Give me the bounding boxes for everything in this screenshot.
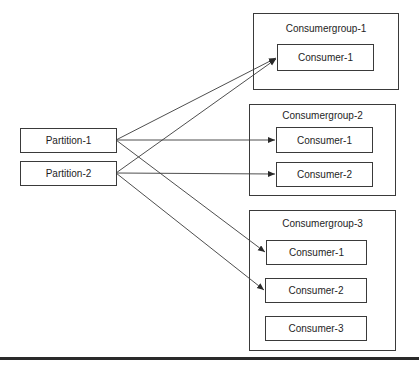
cg2-consumer-2-node: Consumer-2 — [276, 162, 373, 187]
cg3-consumer-2-label: Consumer-2 — [288, 285, 343, 296]
cg3-consumer-2-node: Consumer-2 — [265, 278, 367, 303]
bottom-rule — [0, 357, 419, 360]
cg2-consumer-1-label: Consumer-1 — [297, 135, 352, 146]
cg3-consumer-1-node: Consumer-1 — [266, 240, 367, 265]
cg3-consumer-3-label: Consumer-3 — [288, 323, 343, 334]
partition-2-label: Partition-2 — [46, 168, 92, 179]
cg1-consumer-1-label: Consumer-1 — [298, 52, 353, 63]
cg2-consumer-1-node: Consumer-1 — [276, 127, 373, 153]
edge-p2-cg3c2 — [116, 173, 264, 290]
cg3-consumer-1-label: Consumer-1 — [289, 247, 344, 258]
edge-p1-cg3c1 — [116, 140, 265, 252]
cg2-consumer-2-label: Consumer-2 — [297, 169, 352, 180]
consumergroup-3-label: Consumergroup-3 — [250, 218, 395, 229]
consumergroup-1-label: Consumergroup-1 — [254, 23, 398, 34]
consumergroup-2-label: Consumergroup-2 — [250, 110, 395, 121]
partition-2-node: Partition-2 — [20, 161, 117, 186]
cg3-consumer-3-node: Consumer-3 — [265, 316, 367, 341]
partition-1-node: Partition-1 — [20, 128, 117, 153]
partition-1-label: Partition-1 — [46, 135, 92, 146]
cg1-consumer-1-node: Consumer-1 — [277, 44, 374, 71]
